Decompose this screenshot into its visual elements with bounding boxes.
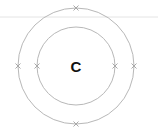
nucleus-symbol: C xyxy=(71,58,82,75)
bohr-diagram: C xyxy=(0,0,158,135)
